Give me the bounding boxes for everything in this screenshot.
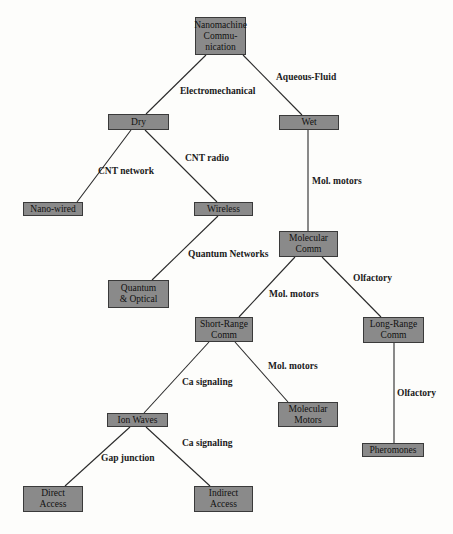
edge-molcomm-longrange [322, 257, 381, 317]
node-wireless: Wireless [194, 202, 253, 216]
edge-root-dry [146, 55, 206, 114]
node-quantum: Quantum & Optical [108, 280, 169, 308]
node-pheromones: Pheromones [362, 443, 424, 457]
node-dry: Dry [108, 114, 169, 130]
node-longrange: Long-Range Comm [363, 317, 424, 343]
edge-label: Mol. motors [312, 176, 362, 186]
edge-ionwaves-indirect [146, 427, 210, 486]
node-indirect: Indirect Access [194, 486, 253, 512]
node-molcomm: Molecular Comm [279, 231, 338, 257]
edge-label: Mol. motors [268, 361, 318, 371]
edge-label: Mol. motors [269, 289, 319, 299]
edge-label: CNT network [98, 166, 154, 176]
edge-label: Ca signaling [182, 438, 232, 448]
edge-label: Olfactory [353, 273, 392, 283]
node-wet: Wet [279, 115, 339, 130]
node-root: Nanomachine Commu- nication [195, 17, 246, 55]
node-nanowired: Nano-wired [23, 202, 83, 216]
edge-label: Gap junction [101, 453, 155, 463]
edge-label: CNT radio [185, 153, 229, 163]
edge-label: Aqueous-Fluid [276, 72, 336, 82]
edge-label: Quantum Networks [188, 249, 269, 259]
node-shortrange: Short-Range Comm [195, 317, 253, 342]
edge-label: Olfactory [397, 388, 436, 398]
node-direct: Direct Access [23, 486, 83, 512]
edge-label: Ca signaling [182, 377, 232, 387]
taxonomy-diagram: Nanomachine Commu- nicationDryWetNano-wi… [0, 0, 453, 534]
edge-wireless-quantum [152, 216, 218, 280]
node-molmotors: Molecular Motors [278, 402, 338, 427]
edge-label: Electromechanical [180, 86, 255, 96]
edge-root-wet [243, 55, 302, 115]
edge-shortrange-molmotors [235, 342, 288, 402]
edge-dry-wireless [145, 130, 217, 202]
edge-molcomm-shortrange [239, 257, 295, 317]
node-ionwaves: Ion Waves [107, 413, 168, 427]
